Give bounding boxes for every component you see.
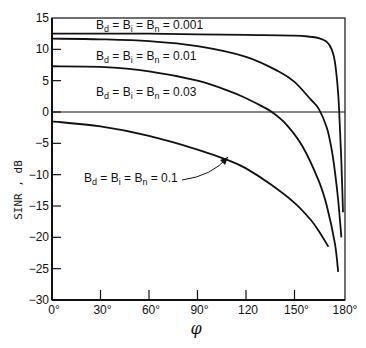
curve-label-0: Bd = Bi = Bn = 0.001 (96, 18, 203, 34)
curves (52, 34, 343, 272)
x-tick-label: 90° (190, 303, 208, 317)
x-tick-label: 0° (48, 303, 60, 317)
curve-label-3: Bd = Bi = Bn = 0.1 (84, 171, 178, 187)
y-tick-label: −30 (29, 293, 50, 307)
y-tick-label: 10 (36, 42, 50, 56)
sinr-vs-phi-chart: 151050−5−10−15−20−25−30 0°30°60°90°12015… (0, 0, 366, 348)
x-axis-title: φ (190, 319, 202, 338)
y-tick-label: −25 (29, 262, 50, 276)
y-ticks: 151050−5−10−15−20−25−30 (29, 11, 61, 307)
y-tick-label: −20 (29, 230, 50, 244)
x-ticks: 0°30°60°90°120150°180° (48, 290, 357, 317)
x-tick-label: 120 (238, 303, 258, 317)
y-tick-label: −5 (35, 136, 49, 150)
y-tick-label: 5 (42, 74, 49, 88)
curve-labels: Bd = Bi = Bn = 0.001Bd = Bi = Bn = 0.01B… (84, 18, 228, 187)
x-tick-label: 150° (284, 303, 309, 317)
curve-label-2: Bd = Bi = Bn = 0.03 (96, 85, 197, 101)
x-tick-label: 60° (142, 303, 160, 317)
y-axis-title: SINR , dB (12, 160, 25, 220)
curve-label-1: Bd = Bi = Bn = 0.01 (96, 49, 197, 65)
y-tick-label: 15 (36, 11, 50, 25)
y-tick-label: 0 (42, 105, 49, 119)
y-tick-label: −10 (29, 168, 50, 182)
x-tick-label: 180° (333, 303, 358, 317)
y-tick-label: −15 (29, 199, 50, 213)
x-tick-label: 30° (93, 303, 111, 317)
